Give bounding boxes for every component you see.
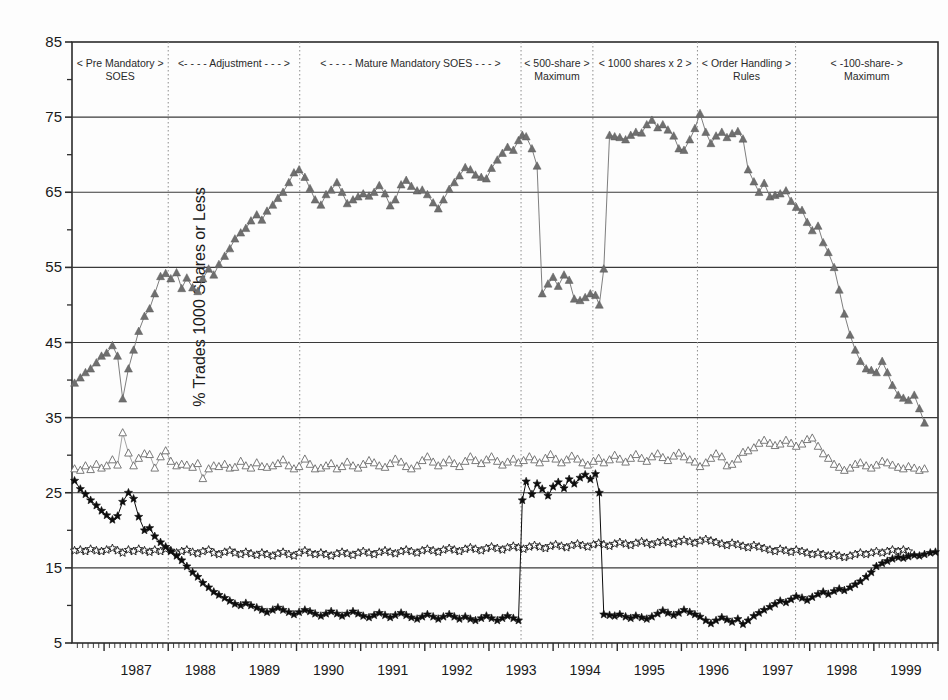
data-point [199, 474, 207, 481]
data-point [744, 166, 752, 173]
x-tick-label: 1988 [170, 662, 230, 678]
data-point [391, 196, 399, 203]
data-point [306, 184, 314, 191]
data-point [782, 436, 790, 443]
y-tick-label: 5 [28, 634, 62, 651]
data-point [183, 274, 191, 281]
data-point [285, 178, 293, 185]
data-point [739, 135, 747, 142]
data-point [343, 458, 351, 465]
x-tick-label: 1997 [748, 662, 808, 678]
data-point [851, 346, 859, 353]
x-tick-label: 1995 [619, 662, 679, 678]
data-point [429, 199, 437, 206]
data-point [295, 166, 303, 173]
data-point [835, 286, 843, 293]
data-point [402, 176, 410, 183]
data-point [611, 451, 619, 458]
data-point [253, 211, 261, 218]
data-point [445, 456, 453, 463]
data-point [311, 196, 319, 203]
y-tick-label: 35 [28, 409, 62, 426]
data-point [301, 455, 309, 462]
data-point [526, 453, 534, 460]
data-point [221, 460, 229, 467]
data-point [824, 248, 832, 255]
data-point [760, 179, 768, 186]
data-point [130, 346, 138, 353]
data-point [488, 453, 496, 460]
y-tick-label: 25 [28, 484, 62, 501]
data-point [814, 222, 822, 229]
data-point [93, 460, 101, 467]
data-point [846, 331, 854, 338]
data-point [189, 283, 197, 290]
data-point [455, 172, 463, 179]
y-tick-label: 75 [28, 108, 62, 125]
data-point [568, 452, 576, 459]
data-point [146, 304, 154, 311]
data-point [659, 120, 667, 127]
data-point [549, 273, 557, 280]
data-point [910, 391, 918, 398]
data-point [504, 143, 512, 150]
data-point [237, 457, 245, 464]
data-point [702, 128, 710, 135]
data-point [135, 327, 143, 334]
data-point [114, 352, 122, 359]
data-point [418, 186, 426, 193]
data-point [327, 459, 335, 466]
regime-label: < 1000 shares x 2 > [593, 57, 698, 70]
data-point [632, 450, 640, 457]
series-open-star [70, 535, 912, 561]
data-point [560, 271, 568, 278]
y-tick-label: 85 [28, 33, 62, 50]
regime-label: <- - - - Adjustment - - - > [168, 57, 300, 70]
data-point [595, 301, 603, 308]
data-point [199, 274, 207, 281]
data-point [819, 450, 827, 457]
x-tick-label: 1996 [683, 662, 743, 678]
data-point [226, 244, 234, 251]
data-point [712, 450, 720, 457]
data-point [510, 455, 518, 462]
data-point [538, 289, 546, 296]
x-tick-label: 1993 [491, 662, 551, 678]
x-tick-label: 1989 [234, 662, 294, 678]
data-point [808, 434, 816, 441]
data-point [130, 462, 138, 469]
data-point [547, 450, 555, 457]
regime-label: < 500-share > Maximum [521, 57, 593, 82]
regime-label: < Order Handling > Rules [697, 57, 795, 82]
data-point [135, 512, 143, 520]
y-tick-label: 55 [28, 258, 62, 275]
data-point [215, 260, 223, 267]
data-point [595, 454, 603, 461]
chart-figure: % Trades 1000 Shares or Less 85756555453… [0, 0, 948, 700]
data-point [787, 197, 795, 204]
data-point [439, 196, 447, 203]
y-tick-label: 65 [28, 183, 62, 200]
data-point [359, 190, 367, 197]
data-point [814, 442, 822, 449]
data-point [878, 357, 886, 364]
regime-label: < -100-share- > Maximum [796, 57, 938, 82]
data-point [528, 490, 536, 498]
data-point [718, 128, 726, 135]
data-point [856, 357, 864, 364]
x-tick-label: 1990 [299, 662, 359, 678]
data-point [205, 265, 213, 272]
data-point [819, 238, 827, 245]
data-point [616, 610, 624, 618]
data-point [119, 497, 127, 505]
data-point [124, 488, 132, 496]
data-point [194, 459, 202, 466]
data-point [178, 284, 186, 291]
data-point [691, 124, 699, 131]
data-point [921, 465, 929, 472]
data-point [375, 181, 383, 188]
data-point [173, 268, 181, 275]
data-point [301, 606, 309, 614]
x-tick-label: 1992 [427, 662, 487, 678]
data-point [883, 368, 891, 375]
